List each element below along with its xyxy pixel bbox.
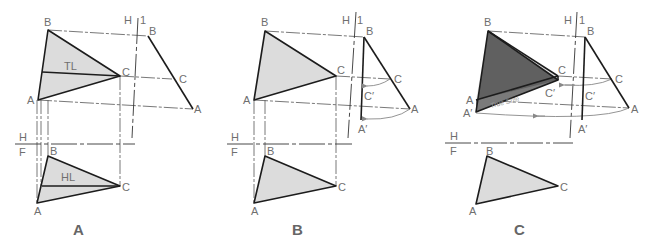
descriptive-geometry-figure: B C A TL H 1 B C A H F B C A HL A: [0, 0, 652, 248]
tl-label: TL: [64, 60, 77, 72]
panel-c: True Size B C A C′ A′ H 1 B C A C′ A′ H …: [445, 12, 639, 238]
revolution-arc-c: [367, 79, 390, 86]
panel-a: B C A TL H 1 B C A H F B C A HL A: [15, 14, 202, 238]
front-vertex-c: C: [338, 181, 346, 193]
aux-vertex-b: B: [149, 25, 156, 37]
panel-label-c: C: [514, 221, 525, 238]
fold-label-h: H: [450, 130, 458, 142]
fold-label-h: H: [19, 131, 27, 143]
projection-line: [48, 30, 148, 36]
front-vertex-b: B: [486, 145, 493, 157]
top-vertex-c: C: [558, 64, 566, 76]
front-vertex-b: B: [267, 145, 274, 157]
front-vertex-c: C: [560, 181, 568, 193]
top-vertex-b: B: [484, 16, 491, 28]
plane-front-view: [37, 156, 120, 203]
front-vertex-a: A: [469, 205, 477, 217]
front-vertex-c: C: [122, 181, 130, 193]
aux-vertex-a: A: [194, 103, 202, 115]
plane-top-view: [38, 30, 120, 100]
top-vertex-a: A: [243, 94, 251, 106]
aux-vertex-b: B: [587, 25, 594, 37]
top-vertex-c: C: [122, 66, 130, 78]
fold-label-h: H: [124, 14, 132, 26]
fold-label-f: F: [19, 146, 26, 158]
revolution-arc-a: [367, 109, 410, 119]
projection-line: [265, 31, 364, 37]
front-vertex-b: B: [50, 145, 57, 157]
fold-label-f: F: [450, 145, 457, 157]
revolved-edge-view: [582, 37, 585, 120]
fold-line-h-1: [348, 12, 356, 138]
hl-label: HL: [61, 171, 75, 183]
revolved-edge-view: [361, 37, 364, 120]
top-vertex-b: B: [261, 16, 268, 28]
aux-vertex-c: C: [394, 73, 402, 85]
top-vertex-c-revolved: C′: [545, 87, 555, 99]
projection-line: [38, 100, 193, 109]
fold-label-f: F: [231, 146, 238, 158]
fold-label-1: 1: [579, 14, 585, 26]
plane-top-view: [254, 31, 336, 100]
aux-vertex-b: B: [366, 25, 373, 37]
top-vertex-a-revolved: A′: [463, 107, 472, 119]
aux-vertex-a-revolved: A′: [358, 123, 367, 135]
aux-vertex-c-revolved: C′: [364, 90, 374, 102]
panel-label-b: B: [292, 221, 303, 238]
projection-line: [558, 76, 612, 79]
fold-label-h: H: [564, 14, 572, 26]
aux-vertex-c: C: [615, 73, 623, 85]
plane-front-view: [254, 156, 336, 203]
revolution-path-c: [565, 79, 612, 85]
projection-line: [254, 100, 410, 109]
fold-label-1: 1: [357, 14, 363, 26]
fold-label-1: 1: [140, 14, 146, 26]
fold-line-h-1: [570, 12, 577, 138]
aux-vertex-a: A: [631, 103, 639, 115]
fold-line-h-1: [132, 18, 138, 138]
fold-label-h: H: [342, 14, 350, 26]
panel-label-a: A: [73, 221, 84, 238]
revolution-path-a: [476, 108, 629, 117]
aux-vertex-c-revolved: C′: [585, 90, 595, 102]
front-vertex-a: A: [251, 205, 259, 217]
projection-line: [488, 31, 585, 37]
aux-vertex-a: A: [411, 103, 419, 115]
panel-b: B C A H 1 B C A C′ A′ H F B C A B: [227, 12, 419, 238]
top-vertex-c: C: [337, 64, 345, 76]
aux-vertex-a-revolved: A′: [578, 123, 587, 135]
fold-label-h: H: [231, 131, 239, 143]
top-vertex-b: B: [44, 16, 51, 28]
aux-vertex-c: C: [179, 73, 187, 85]
top-vertex-a: A: [466, 94, 474, 106]
front-vertex-a: A: [34, 205, 42, 217]
top-vertex-a: A: [27, 94, 35, 106]
